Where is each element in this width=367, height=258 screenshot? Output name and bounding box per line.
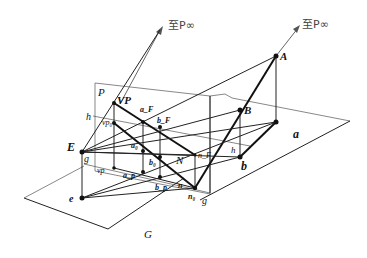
point-a0 — [141, 149, 145, 153]
ground-plane-back-edge — [24, 166, 84, 198]
label-B: B — [243, 104, 251, 116]
object-plane-back — [210, 94, 350, 121]
point-e — [80, 196, 85, 201]
point-VP — [112, 101, 116, 105]
label-b: b — [241, 159, 247, 173]
point-b0 — [158, 155, 162, 159]
label-a0: a₀ — [131, 141, 138, 150]
label-g-right: g — [202, 195, 207, 206]
point-N — [194, 154, 197, 157]
label-bF: b_F — [157, 116, 171, 125]
point-A — [274, 54, 279, 59]
ray-E-VP — [82, 30, 160, 152]
point-vp0 — [112, 121, 116, 125]
label-A: A — [279, 50, 287, 62]
label-n: n — [178, 181, 183, 190]
label-picture-plane: P — [97, 86, 105, 98]
label-ground-plane: G — [144, 228, 152, 240]
point-ap — [141, 170, 145, 174]
label-object-plane: a — [293, 127, 299, 141]
line-b-a-point — [240, 122, 276, 157]
point-aF — [141, 120, 145, 124]
label-vp0: vp₀ — [102, 118, 113, 127]
object-plane-front-edge — [200, 121, 350, 200]
perspective-diagram: 至P∞ 至P∞ P G a A B b E e VP vp₀ vp a_F b_… — [0, 0, 367, 258]
label-VP: VP — [117, 94, 131, 106]
point-a-base — [274, 120, 279, 125]
label-E: E — [66, 140, 75, 154]
label-g-left: g — [84, 153, 89, 164]
label-aF: a_F — [140, 105, 154, 114]
label-h-left: h — [86, 111, 91, 122]
point-bF — [158, 125, 162, 129]
arrow-label-left: 至P∞ — [168, 19, 195, 32]
label-e: e — [69, 193, 74, 204]
arrow-line-left — [120, 30, 160, 104]
point-bp — [158, 175, 162, 179]
line-VP-bF — [114, 103, 195, 155]
arrow-head-right — [293, 25, 300, 33]
label-N: N — [175, 154, 184, 166]
point-B — [238, 108, 243, 113]
label-vp: vp — [97, 166, 105, 175]
point-n0 — [193, 186, 197, 190]
label-bp: b_p — [155, 183, 167, 192]
label-h-right: h — [231, 145, 236, 155]
label-n0: n₀ — [188, 192, 195, 201]
label-b0: b₀ — [149, 158, 156, 167]
arrow-label-right: 至P∞ — [302, 18, 329, 31]
label-nF: n_F — [198, 151, 211, 160]
label-ap: a_p — [123, 171, 135, 180]
point-vp — [112, 166, 116, 170]
